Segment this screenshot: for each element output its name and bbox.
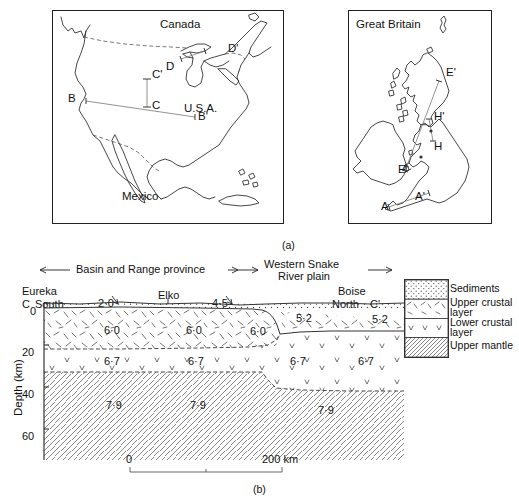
cross-section-svg <box>0 0 519 499</box>
velocity-upper-crust-2: 6·0 <box>186 324 202 336</box>
velocity-arrow-4-5 <box>226 296 232 304</box>
legend-swatch-sediments <box>405 280 448 299</box>
legend-label-sediments: Sediments <box>450 283 500 294</box>
panel-b-caption: (b) <box>253 483 266 495</box>
legend-swatches-svg <box>405 280 448 357</box>
velocity-lower-crust-3: 6·7 <box>290 355 306 367</box>
legend-box <box>404 279 449 358</box>
legend-label-mantle: Upper mantle <box>450 340 513 351</box>
legend-swatch-lower-crust <box>405 318 448 337</box>
velocity-upper-crust-1: 6·0 <box>104 324 120 336</box>
velocity-mantle-2: 7·9 <box>190 399 206 411</box>
scale-bar <box>130 467 282 472</box>
velocity-lower-crust-4: 6·7 <box>358 355 374 367</box>
legend-swatch-upper-crust <box>405 299 448 318</box>
layer-upper-crust <box>44 307 280 349</box>
legend-label-lower-crust-2: layer <box>450 327 473 338</box>
velocity-lower-crust-1: 6·7 <box>104 355 120 367</box>
velocity-mantle-3: 7·9 <box>318 404 334 416</box>
velocity-upper-crust-5: 5·2 <box>372 313 388 325</box>
scale-bar-start: 0 <box>126 453 132 465</box>
figure-root: Canada U.S.A. Mexico B B' C C' D D' (a) <box>0 0 519 499</box>
velocity-upper-crust-3: 6·0 <box>250 325 266 337</box>
velocity-mantle-1: 7·9 <box>106 399 122 411</box>
scale-bar-end: 200 km <box>262 453 298 465</box>
velocity-lower-crust-2: 6·7 <box>188 355 204 367</box>
legend-swatch-mantle <box>405 338 448 357</box>
velocity-upper-crust-4: 5·2 <box>296 312 312 324</box>
